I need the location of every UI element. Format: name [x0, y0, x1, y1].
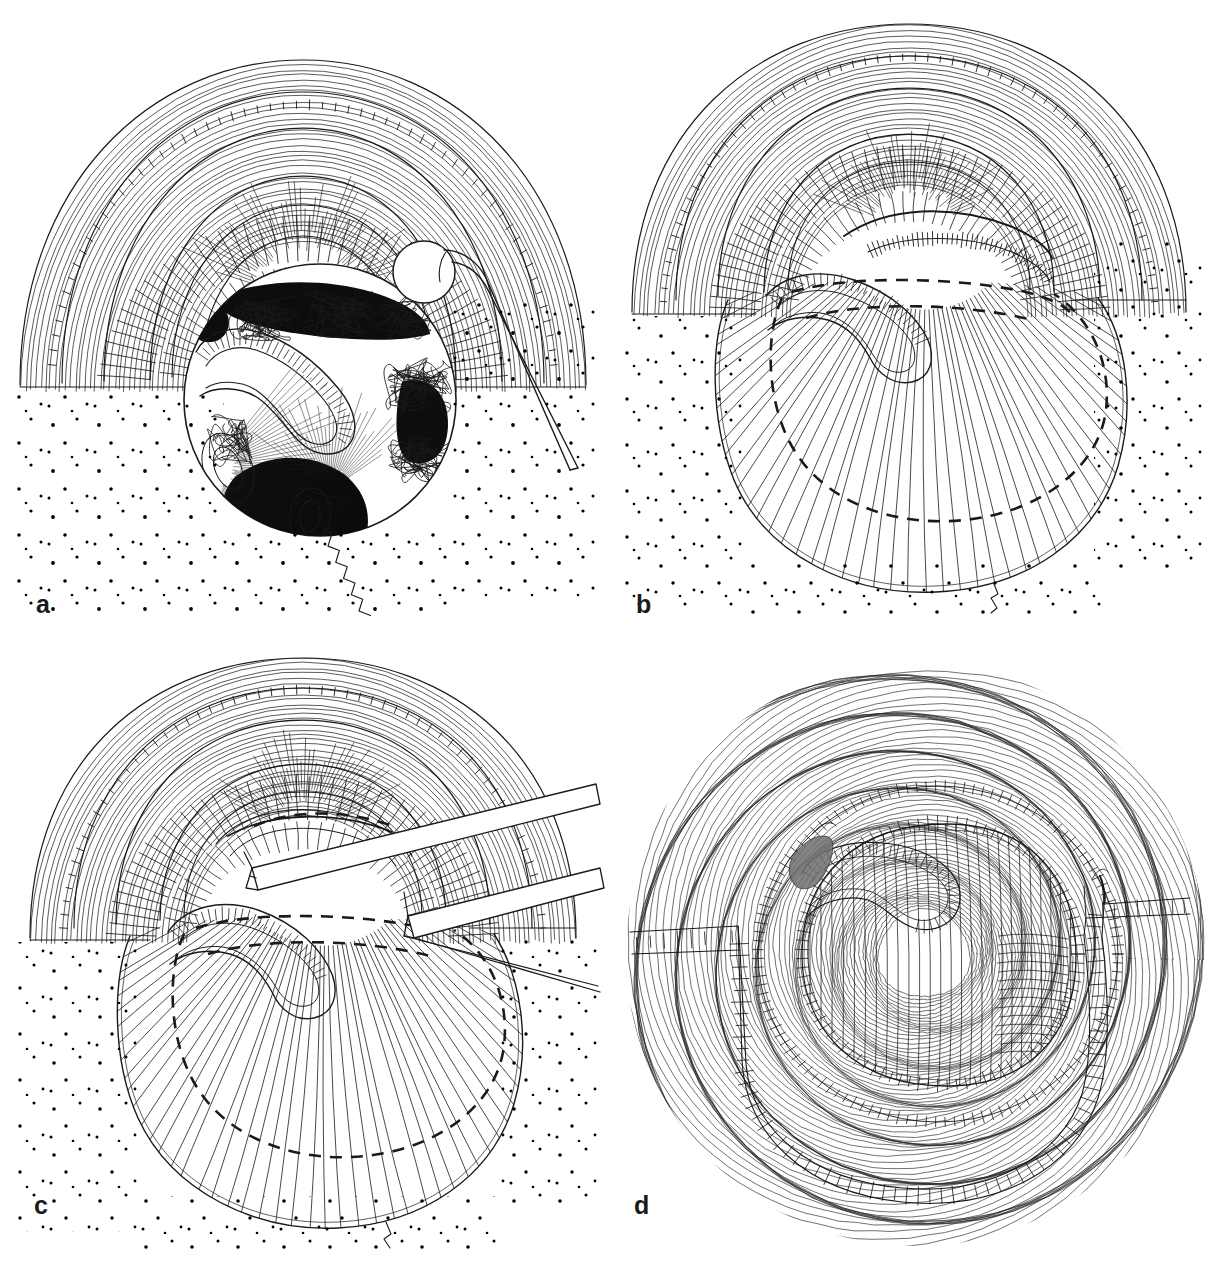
- panel-label-b: b: [636, 592, 651, 617]
- panel-b-artwork: [606, 0, 1212, 635]
- panel-c-artwork: [0, 636, 606, 1271]
- figure-panel-b: [606, 0, 1212, 635]
- figure-panel-d: [606, 636, 1212, 1271]
- panel-label-a: a: [36, 592, 50, 617]
- figure-panel-a: [0, 0, 606, 635]
- figure-sheet: a b c d: [0, 0, 1212, 1271]
- figure-panel-c: [0, 636, 606, 1271]
- panel-a-artwork: [0, 0, 606, 635]
- panel-label-d: d: [634, 1193, 649, 1218]
- panel-label-c: c: [34, 1193, 48, 1218]
- panel-d-artwork: [606, 636, 1212, 1271]
